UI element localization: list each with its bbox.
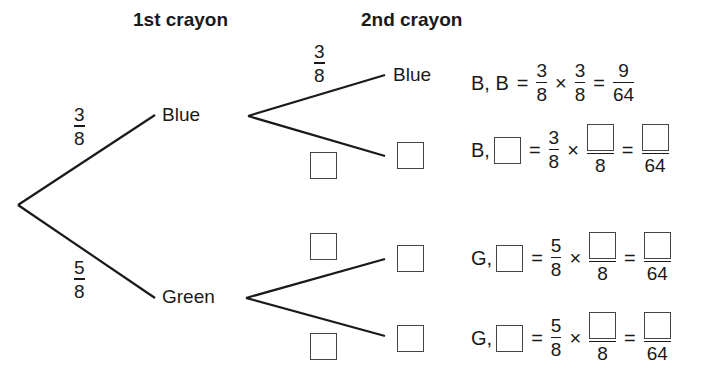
answer-box-numerator[interactable] — [587, 124, 614, 151]
fraction-bar — [575, 82, 586, 84]
fraction-1: 5 8 — [551, 316, 562, 361]
fraction-1: 3 8 — [536, 61, 547, 106]
fraction-bar — [587, 153, 614, 155]
outcome-label: G, — [471, 247, 492, 270]
numerator: 3 — [549, 128, 560, 148]
equals-sign: = — [624, 247, 636, 270]
equals-sign: = — [531, 247, 543, 270]
fraction-bar — [642, 153, 669, 155]
prob-blue-first: 3 8 — [74, 105, 85, 148]
fraction-bar — [613, 82, 634, 84]
result-fraction: 9 64 — [613, 61, 634, 106]
denominator: 8 — [597, 264, 608, 284]
fraction-1: 3 8 — [549, 128, 560, 173]
answer-box-numerator[interactable] — [589, 312, 616, 339]
answer-box-outcome[interactable] — [494, 137, 521, 164]
answer-box-result-numerator[interactable] — [644, 312, 671, 339]
numerator: 9 — [618, 61, 629, 81]
equals-sign: = — [529, 139, 541, 162]
times-sign: × — [567, 139, 579, 162]
fraction-1: 5 8 — [551, 236, 562, 281]
denominator: 8 — [597, 344, 608, 364]
prob-blank-box-green-second[interactable] — [310, 333, 337, 360]
numerator: 5 — [551, 236, 562, 256]
node-green-first: Green — [162, 286, 215, 308]
node-blank-box-green-second[interactable] — [397, 325, 424, 352]
answer-box-result-numerator[interactable] — [642, 124, 669, 151]
fraction-2: 8 — [587, 124, 614, 177]
header-second-crayon: 2nd crayon — [361, 9, 462, 31]
times-sign: × — [569, 327, 581, 350]
times-sign: × — [555, 72, 567, 95]
equals-sign: = — [517, 72, 529, 95]
result-fraction: 64 — [642, 124, 669, 177]
denominator: 64 — [613, 85, 634, 105]
denominator: 64 — [644, 156, 665, 176]
numerator: 3 — [575, 61, 586, 81]
outcome-label: B, — [471, 139, 490, 162]
answer-box-outcome[interactable] — [496, 245, 523, 272]
fraction-bar — [74, 125, 85, 127]
fraction-bar — [551, 257, 562, 259]
fraction-2: 8 — [589, 232, 616, 285]
prob-blank-box-green-first[interactable] — [310, 233, 337, 260]
answer-box-result-numerator[interactable] — [644, 232, 671, 259]
outcome-label: B, B — [471, 72, 509, 95]
equation-row-4: G, = 5 8 × 8 = 64 — [471, 308, 671, 368]
fraction-bar — [551, 337, 562, 339]
fraction-bar — [589, 341, 616, 343]
header-first-crayon: 1st crayon — [133, 9, 228, 31]
equation-row-1: B, B = 3 8 × 3 8 = 9 64 — [471, 53, 634, 113]
node-blue-second: Blue — [393, 64, 431, 86]
fraction-bar — [549, 149, 560, 151]
equals-sign: = — [593, 72, 605, 95]
denominator: 8 — [314, 66, 325, 85]
fraction-2: 8 — [589, 312, 616, 365]
denominator: 8 — [595, 156, 606, 176]
prob-green-first: 5 8 — [74, 258, 85, 301]
equals-sign: = — [531, 327, 543, 350]
times-sign: × — [569, 247, 581, 270]
answer-box-numerator[interactable] — [589, 232, 616, 259]
numerator: 3 — [74, 105, 85, 124]
prob-blank-box-blue-other[interactable] — [310, 152, 337, 179]
denominator: 8 — [575, 85, 586, 105]
fraction-bar — [644, 341, 671, 343]
equals-sign: = — [622, 139, 634, 162]
fraction-bar — [589, 261, 616, 263]
numerator: 5 — [74, 258, 85, 277]
denominator: 64 — [647, 264, 668, 284]
equation-row-3: G, = 5 8 × 8 = 64 — [471, 228, 671, 288]
answer-box-outcome[interactable] — [496, 325, 523, 352]
equation-row-2: B, = 3 8 × 8 = 64 — [471, 120, 669, 180]
result-fraction: 64 — [644, 232, 671, 285]
outcome-label: G, — [471, 327, 492, 350]
node-blank-box-green-first[interactable] — [397, 245, 424, 272]
fraction-bar — [74, 278, 85, 280]
denominator: 64 — [647, 344, 668, 364]
result-fraction: 64 — [644, 312, 671, 365]
fraction-bar — [644, 261, 671, 263]
numerator: 3 — [536, 61, 547, 81]
node-blue-first: Blue — [162, 104, 200, 126]
numerator: 3 — [314, 42, 325, 61]
denominator: 8 — [74, 129, 85, 148]
denominator: 8 — [536, 85, 547, 105]
denominator: 8 — [551, 260, 562, 280]
fraction-2: 3 8 — [575, 61, 586, 106]
denominator: 8 — [74, 282, 85, 301]
prob-blue-blue: 3 8 — [314, 42, 325, 85]
fraction-bar — [314, 62, 325, 64]
denominator: 8 — [549, 152, 560, 172]
node-blank-box-blue-other[interactable] — [397, 142, 424, 169]
denominator: 8 — [551, 340, 562, 360]
fraction-bar — [536, 82, 547, 84]
equals-sign: = — [624, 327, 636, 350]
numerator: 5 — [551, 316, 562, 336]
